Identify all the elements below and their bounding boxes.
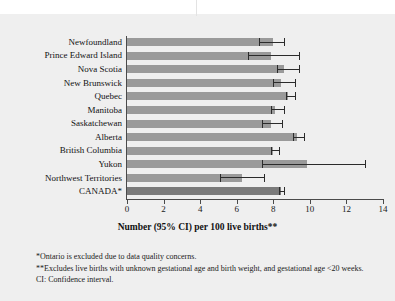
- error-bar-line: [273, 82, 295, 83]
- bar: [127, 38, 273, 46]
- category-label: Nova Scotia: [78, 64, 122, 74]
- x-axis-tick-label: 8: [271, 204, 276, 214]
- error-bar-cap-lower: [262, 120, 263, 128]
- error-bar-cap-upper: [264, 174, 265, 182]
- category-label: New Brunswick: [64, 78, 122, 88]
- error-bar-cap-upper: [282, 120, 283, 128]
- error-bar-cap-lower: [271, 147, 272, 155]
- bar-row: [127, 131, 383, 145]
- category-label: Yukon: [98, 159, 122, 169]
- category-label: Prince Edward Island: [45, 50, 122, 60]
- x-axis-tick-label: 4: [198, 204, 203, 214]
- error-bar-cap-lower: [271, 106, 272, 114]
- x-axis-tick-label: 10: [305, 204, 314, 214]
- error-bar-line: [293, 137, 304, 138]
- category-label: British Columbia: [60, 145, 122, 155]
- category-label: Manitoba: [88, 105, 123, 115]
- bar: [127, 79, 281, 87]
- x-axis-tick-label: 14: [379, 204, 388, 214]
- error-bar-line: [277, 69, 299, 70]
- bar-row: [127, 104, 383, 118]
- category-label: Northwest Territories: [45, 173, 122, 183]
- category-label: Alberta: [95, 132, 122, 142]
- footnote-two: **Excludes live births with unknown gest…: [36, 264, 366, 286]
- error-bar-cap-lower: [259, 38, 260, 46]
- category-label: CANADA*: [79, 186, 122, 196]
- category-label: Quebec: [95, 91, 122, 101]
- bar: [127, 120, 271, 128]
- error-bar-cap-upper: [365, 160, 366, 168]
- bar-chart: NewfoundlandPrince Edward IslandNova Sco…: [0, 0, 395, 301]
- category-label: Saskatchewan: [71, 118, 122, 128]
- error-bar-cap-upper: [295, 92, 296, 100]
- x-axis-tick-label: 2: [161, 204, 166, 214]
- error-bar-line: [271, 150, 278, 151]
- error-bar-cap-lower: [279, 187, 280, 195]
- error-bar-cap-upper: [299, 52, 300, 60]
- bar-row: [127, 50, 383, 64]
- bar-row: [127, 63, 383, 77]
- error-bar-cap-upper: [284, 187, 285, 195]
- plot-area: [127, 36, 383, 199]
- bar: [127, 147, 273, 155]
- bar-row: [127, 90, 383, 104]
- error-bar-cap-upper: [279, 147, 280, 155]
- category-axis-labels: NewfoundlandPrince Edward IslandNova Sco…: [0, 36, 122, 199]
- bar-row: [127, 118, 383, 132]
- error-bar-cap-lower: [277, 65, 278, 73]
- error-bar-cap-upper: [295, 79, 296, 87]
- error-bar-line: [262, 123, 282, 124]
- error-bar-cap-lower: [273, 79, 274, 87]
- error-bar-cap-upper: [304, 133, 305, 141]
- error-bar-cap-lower: [248, 52, 249, 60]
- bar: [127, 106, 275, 114]
- error-bar-cap-lower: [220, 174, 221, 182]
- error-bar-line: [271, 109, 284, 110]
- bar-row: [127, 185, 383, 199]
- error-bar-cap-lower: [293, 133, 294, 141]
- error-bar-line: [259, 42, 285, 43]
- x-axis-tick-label: 0: [125, 204, 130, 214]
- x-axis-title: Number (95% CI) per 100 live births**: [0, 222, 395, 232]
- bar: [127, 187, 281, 195]
- bar-row: [127, 145, 383, 159]
- bar: [127, 65, 284, 73]
- error-bar-cap-upper: [284, 106, 285, 114]
- error-bar-cap-upper: [284, 38, 285, 46]
- error-bar-cap-lower: [262, 160, 263, 168]
- bar: [127, 133, 297, 141]
- error-bar-line: [286, 96, 295, 97]
- error-bar-line: [220, 177, 264, 178]
- error-bar-cap-lower: [286, 92, 287, 100]
- x-axis-tick-label: 12: [342, 204, 351, 214]
- bar-row: [127, 77, 383, 91]
- bar: [127, 92, 288, 100]
- category-label: Newfoundland: [69, 37, 123, 47]
- bar-row: [127, 172, 383, 186]
- footnote-one: *Ontario is excluded due to data quality…: [36, 252, 366, 263]
- error-bar-cap-upper: [299, 65, 300, 73]
- error-bar-line: [248, 55, 299, 56]
- bar-row: [127, 158, 383, 172]
- x-axis-tick-label: 6: [234, 204, 239, 214]
- error-bar-line: [262, 164, 364, 165]
- x-axis-line: [126, 199, 384, 200]
- bar-row: [127, 36, 383, 50]
